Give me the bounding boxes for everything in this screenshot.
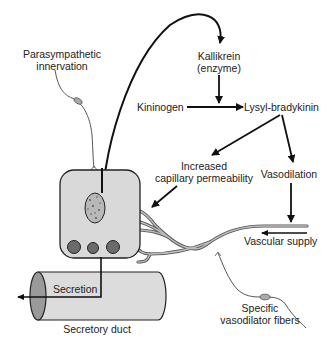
- secretory-duct-label: Secretory duct: [63, 323, 131, 335]
- label-line: (enzyme): [197, 62, 241, 74]
- secretion-label: Secretion: [53, 283, 97, 295]
- capillary-permeability-label: Increased capillary permeability: [155, 160, 253, 184]
- label-line: capillary permeability: [155, 172, 253, 184]
- vasodilator-fibers-label: Specific vasodilator fibers: [220, 302, 299, 326]
- vasodilation-label: Vasodilation: [261, 168, 317, 180]
- secretory-granule: [68, 241, 81, 254]
- bradykinin-to-permeability-arrow: [212, 115, 280, 155]
- lysyl-bradykinin-label: Lysyl-bradykinin: [244, 101, 319, 113]
- parasympathetic-nerve-fiber: [55, 70, 97, 170]
- label-line: innervation: [23, 60, 101, 72]
- salivary-kallikrein-diagram: Parasympathetic innervation Kallikrein (…: [0, 0, 335, 342]
- nucleus: [85, 193, 105, 223]
- label-line: vasodilator fibers: [220, 314, 299, 326]
- secretory-granule: [88, 243, 99, 254]
- bradykinin-to-vasodilation-arrow: [282, 115, 293, 162]
- label-line: Increased: [155, 160, 253, 172]
- parasympathetic-label: Parasympathetic innervation: [23, 48, 101, 72]
- vascular-supply-label: Vascular supply: [244, 235, 317, 247]
- acinar-cell: [60, 170, 140, 258]
- secretory-granule: [107, 241, 120, 254]
- label-line: Parasympathetic: [23, 48, 101, 60]
- permeability-to-capillary-arrow: [152, 186, 177, 207]
- kallikrein-label: Kallikrein (enzyme): [197, 50, 241, 74]
- secretory-duct: [30, 272, 166, 320]
- label-line: Kallikrein: [197, 50, 241, 62]
- kininogen-label: Kininogen: [137, 101, 184, 113]
- label-line: Specific: [220, 302, 299, 314]
